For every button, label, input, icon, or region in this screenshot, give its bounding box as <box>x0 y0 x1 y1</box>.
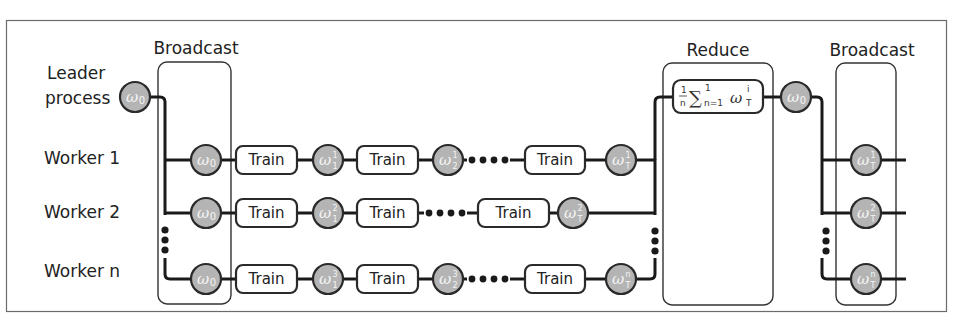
worker-n-final-weights-node: ωnT <box>606 264 636 294</box>
weight-superscript: 2 <box>870 204 875 213</box>
weight-symbol: ω <box>564 204 576 222</box>
weight-symbol: ω <box>126 88 138 106</box>
broadcast-trunk-2-bottom <box>822 258 852 279</box>
formula-fraction-den: n <box>680 98 686 108</box>
weight-subscript: 0 <box>139 95 145 106</box>
worker-2-init-weights-node: ω0 <box>191 198 221 228</box>
weight-subscript: T <box>870 162 876 171</box>
weight-subscript: 0 <box>210 277 216 288</box>
weight-symbol: ω <box>319 151 331 169</box>
formula-term: ω <box>730 89 742 107</box>
weight-superscript: 2 <box>577 204 582 213</box>
row-label-leader-line1: Leader <box>47 63 105 83</box>
border <box>7 21 947 312</box>
train-box: Train <box>357 265 418 293</box>
weight-subscript: 1 <box>332 281 337 290</box>
broadcast-weights-node: ω2T <box>851 198 881 228</box>
weight-superscript: 3 <box>332 270 337 279</box>
ellipsis-horizontal-w2 <box>426 210 466 217</box>
ellipsis-horizontal-wn <box>469 276 509 283</box>
ellipsis-vertical-left <box>161 226 168 253</box>
weight-superscript: 2 <box>332 204 337 213</box>
svg-text:Train: Train <box>536 270 573 288</box>
svg-text:Train: Train <box>248 270 285 288</box>
formula-fraction-num: 1 <box>681 85 687 95</box>
weight-superscript: 1 <box>332 151 337 160</box>
train-box: Train <box>525 265 585 293</box>
broadcast-trunk-2 <box>810 97 822 215</box>
row-label-leader-line2: process <box>45 88 110 108</box>
worker-1-weights-node: ω11 <box>313 145 343 175</box>
train-box: Train <box>236 146 297 174</box>
broadcast-group-label-2: Broadcast <box>829 40 915 60</box>
leader-weights-node: ω0 <box>120 82 150 112</box>
weight-nodes: ω0ω0ω0ω11ω12ω1Tω0ω21ω2Tω0ω31ω32ωnTω1Tω2T… <box>120 82 881 294</box>
svg-text:Train: Train <box>248 204 285 222</box>
weight-subscript: T <box>625 281 631 290</box>
weight-symbol: ω <box>197 204 209 222</box>
weight-subscript: 0 <box>210 211 216 222</box>
formula-sum-lower: n=1 <box>704 98 723 108</box>
weight-symbol: ω <box>857 204 869 222</box>
row-label-worker-n: Worker n <box>44 261 120 281</box>
weight-subscript: T <box>577 215 583 224</box>
train-box: Train <box>357 199 418 227</box>
worker-2-weights-node: ω21 <box>313 198 343 228</box>
weight-subscript: 2 <box>452 281 457 290</box>
worker-n-init-weights-node: ω0 <box>191 264 221 294</box>
formula-term-sub: T <box>745 98 752 108</box>
row-label-worker-1: Worker 1 <box>44 148 120 168</box>
weight-symbol: ω <box>319 204 331 222</box>
worker-1-final-weights-node: ω1T <box>606 145 636 175</box>
weight-subscript: 0 <box>800 95 806 106</box>
weight-subscript: 2 <box>452 162 457 171</box>
weight-superscript: 1 <box>625 151 630 160</box>
weight-superscript: n <box>625 270 630 279</box>
worker-n-weights-node: ω32 <box>433 264 463 294</box>
broadcast-weights-node: ωnT <box>851 264 881 294</box>
weight-subscript: T <box>625 162 631 171</box>
broadcast-trunk-1 <box>149 97 165 215</box>
svg-text:Train: Train <box>369 151 406 169</box>
weight-symbol: ω <box>787 88 799 106</box>
weight-symbol: ω <box>612 270 624 288</box>
svg-text:Train: Train <box>248 151 285 169</box>
wn-row-wire-h <box>636 258 655 279</box>
weight-symbol: ω <box>857 151 869 169</box>
ellipsis-horizontal-w1 <box>469 157 509 164</box>
weight-subscript: T <box>870 215 876 224</box>
weight-symbol: ω <box>612 151 624 169</box>
weight-symbol: ω <box>439 151 451 169</box>
worker-n-weights-node: ω31 <box>313 264 343 294</box>
svg-text:Train: Train <box>495 204 532 222</box>
weight-superscript: n <box>870 270 875 279</box>
weight-subscript: T <box>870 281 876 290</box>
train-box: Train <box>236 265 297 293</box>
ellipsis-vertical-right <box>822 227 829 254</box>
weight-subscript: 1 <box>332 215 337 224</box>
weight-symbol: ω <box>857 270 869 288</box>
formula-term-sup: i <box>747 84 750 94</box>
formula-sum-upper: 1 <box>705 83 711 93</box>
weight-symbol: ω <box>197 270 209 288</box>
weight-symbol: ω <box>439 270 451 288</box>
weight-superscript: 3 <box>452 270 457 279</box>
broadcast-group-box-1 <box>158 62 231 304</box>
worker-2-final-weights-node: ω2T <box>558 198 588 228</box>
train-box: Train <box>525 146 585 174</box>
train-box: Train <box>236 199 297 227</box>
weight-symbol: ω <box>197 151 209 169</box>
worker-1-init-weights-node: ω0 <box>191 145 221 175</box>
reduce-formula-box: 1 n ∑ 1 n=1 ω i T <box>673 80 763 113</box>
worker-1-weights-node: ω12 <box>433 145 463 175</box>
svg-text:Train: Train <box>369 270 406 288</box>
ellipsis-vertical-reduce <box>651 227 658 254</box>
weight-subscript: 1 <box>332 162 337 171</box>
weight-subscript: 0 <box>210 158 216 169</box>
weight-superscript: 1 <box>452 151 457 160</box>
formula-sum: ∑ <box>689 87 702 108</box>
broadcast-weights-node: ω1T <box>851 145 881 175</box>
broadcast-group-label-1: Broadcast <box>153 38 239 58</box>
row-label-worker-2: Worker 2 <box>44 202 120 222</box>
train-box: Train <box>357 146 418 174</box>
